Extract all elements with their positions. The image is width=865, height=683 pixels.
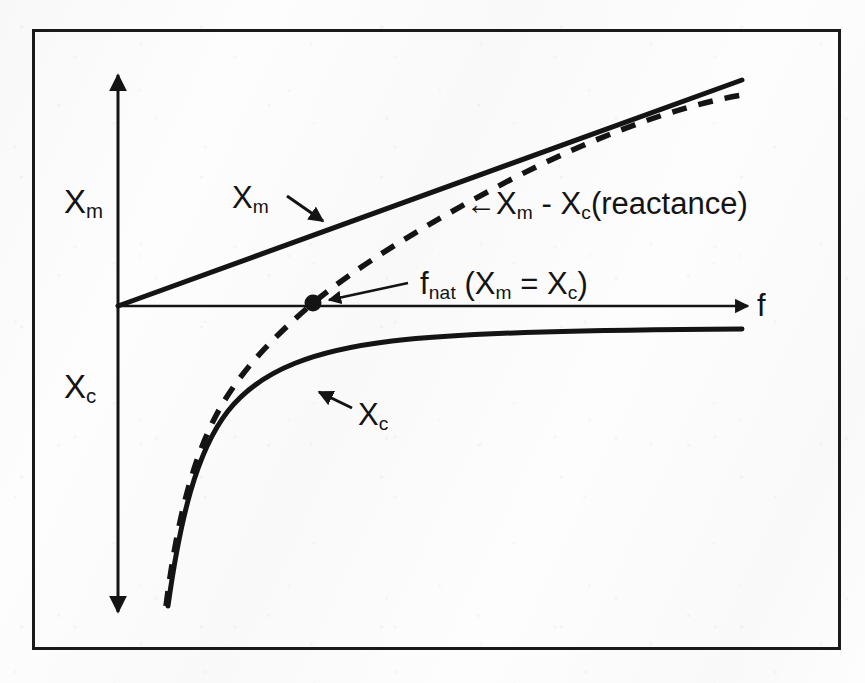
y-axis-label-xc-sub: c [86,384,96,407]
annotation-xc: Xc [358,399,389,430]
y-axis-label-xm-main: X [64,183,86,220]
left-arrow-icon: ← [466,187,496,220]
annotation-net-reactance-xc-main: X [560,186,581,221]
annotation-fnat-sub: nat [429,282,456,303]
xm-leader-arrow [287,196,323,221]
fnat-leader-arrow [329,283,408,300]
figure-border [34,31,840,649]
xc-curve [168,329,742,606]
annotation-net-reactance-minus: - [533,186,561,221]
reactance-frequency-diagram [0,0,865,683]
annotation-fnat-eq: = X [512,266,568,301]
x-axis-label-f-text: f [757,288,766,323]
x-axis-label-f: f [757,290,766,321]
annotation-net-reactance-xc-sub: c [581,202,591,223]
figure-page: Xm Xc f Xm Xc ←Xm - Xc(reactance) fnat (… [0,0,865,683]
annotation-xc-sub: c [379,413,389,434]
net-reactance-curve [166,95,742,606]
annotation-net-reactance-xm-sub: m [517,202,533,223]
annotation-xm-main: X [232,180,253,215]
annotation-net-reactance: ←Xm - Xc(reactance) [466,188,748,219]
y-axis-label-xc: Xc [64,370,96,403]
annotation-fnat: fnat (Xm = Xc) [420,268,588,299]
fnat-marker-dot [305,295,322,312]
y-axis-label-xm: Xm [64,185,103,218]
y-axis-label-xc-main: X [64,368,86,405]
annotation-xm: Xm [232,182,269,213]
annotation-net-reactance-xm-main: X [496,186,517,221]
annotation-net-reactance-paren: (reactance) [591,186,748,221]
annotation-fnat-main: f [420,266,429,301]
xc-leader-arrow [319,392,352,408]
annotation-xm-sub: m [253,196,269,217]
annotation-fnat-xm-sub: m [496,282,512,303]
annotation-xc-main: X [358,397,379,432]
annotation-fnat-open: (X [456,266,496,301]
annotation-fnat-close: ) [578,266,588,301]
y-axis-label-xm-sub: m [86,199,103,222]
annotation-fnat-xc-sub: c [568,282,578,303]
